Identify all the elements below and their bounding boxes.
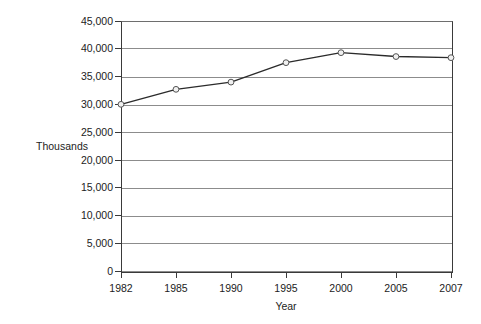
x-axis-tick-label: 1982 xyxy=(91,283,151,294)
plot-area xyxy=(121,21,453,273)
y-tick-mark xyxy=(115,48,121,49)
y-tick-mark xyxy=(115,76,121,77)
y-axis-tick-label: 5,000 xyxy=(0,238,113,249)
gridline xyxy=(122,160,452,161)
y-axis-tick-label: 40,000 xyxy=(0,43,113,54)
y-tick-mark xyxy=(115,160,121,161)
y-axis-tick-label: 25,000 xyxy=(0,127,113,138)
gridline xyxy=(122,48,452,49)
x-axis-title: Year xyxy=(121,301,451,312)
gridline xyxy=(122,271,452,272)
x-tick-mark xyxy=(121,272,122,278)
y-tick-mark xyxy=(115,215,121,216)
y-axis-tick-label: 0 xyxy=(0,266,113,277)
x-tick-mark xyxy=(286,272,287,278)
x-tick-mark xyxy=(341,272,342,278)
x-axis-tick-label: 1995 xyxy=(256,283,316,294)
x-tick-mark xyxy=(176,272,177,278)
y-axis-tick-label: 45,000 xyxy=(0,16,113,27)
y-axis-tick-label: 15,000 xyxy=(0,182,113,193)
x-tick-mark xyxy=(451,272,452,278)
y-axis-tick-label: 10,000 xyxy=(0,210,113,221)
line-chart-figure: 45,000 40,000 35,000 30,000 25,000 20,00… xyxy=(0,0,481,324)
y-axis-tick-label: 30,000 xyxy=(0,99,113,110)
y-tick-mark xyxy=(115,132,121,133)
x-axis-tick-label: 1990 xyxy=(201,283,261,294)
x-tick-mark xyxy=(396,272,397,278)
y-tick-mark xyxy=(115,187,121,188)
gridline xyxy=(122,132,452,133)
gridline xyxy=(122,77,452,78)
gridline xyxy=(122,243,452,244)
gridline xyxy=(122,188,452,189)
x-axis-tick-label: 2005 xyxy=(366,283,426,294)
gridline xyxy=(122,105,452,106)
y-tick-mark xyxy=(115,243,121,244)
y-axis-tick-label: 20,000 xyxy=(0,155,113,166)
y-tick-mark xyxy=(115,21,121,22)
gridline xyxy=(122,216,452,217)
y-axis-tick-label: 35,000 xyxy=(0,71,113,82)
x-axis-tick-label: 1985 xyxy=(146,283,206,294)
x-axis-tick-label: 2007 xyxy=(421,283,481,294)
y-axis-title: Thousands xyxy=(12,141,112,152)
x-axis-tick-label: 2000 xyxy=(311,283,371,294)
y-tick-mark xyxy=(115,104,121,105)
x-tick-mark xyxy=(231,272,232,278)
